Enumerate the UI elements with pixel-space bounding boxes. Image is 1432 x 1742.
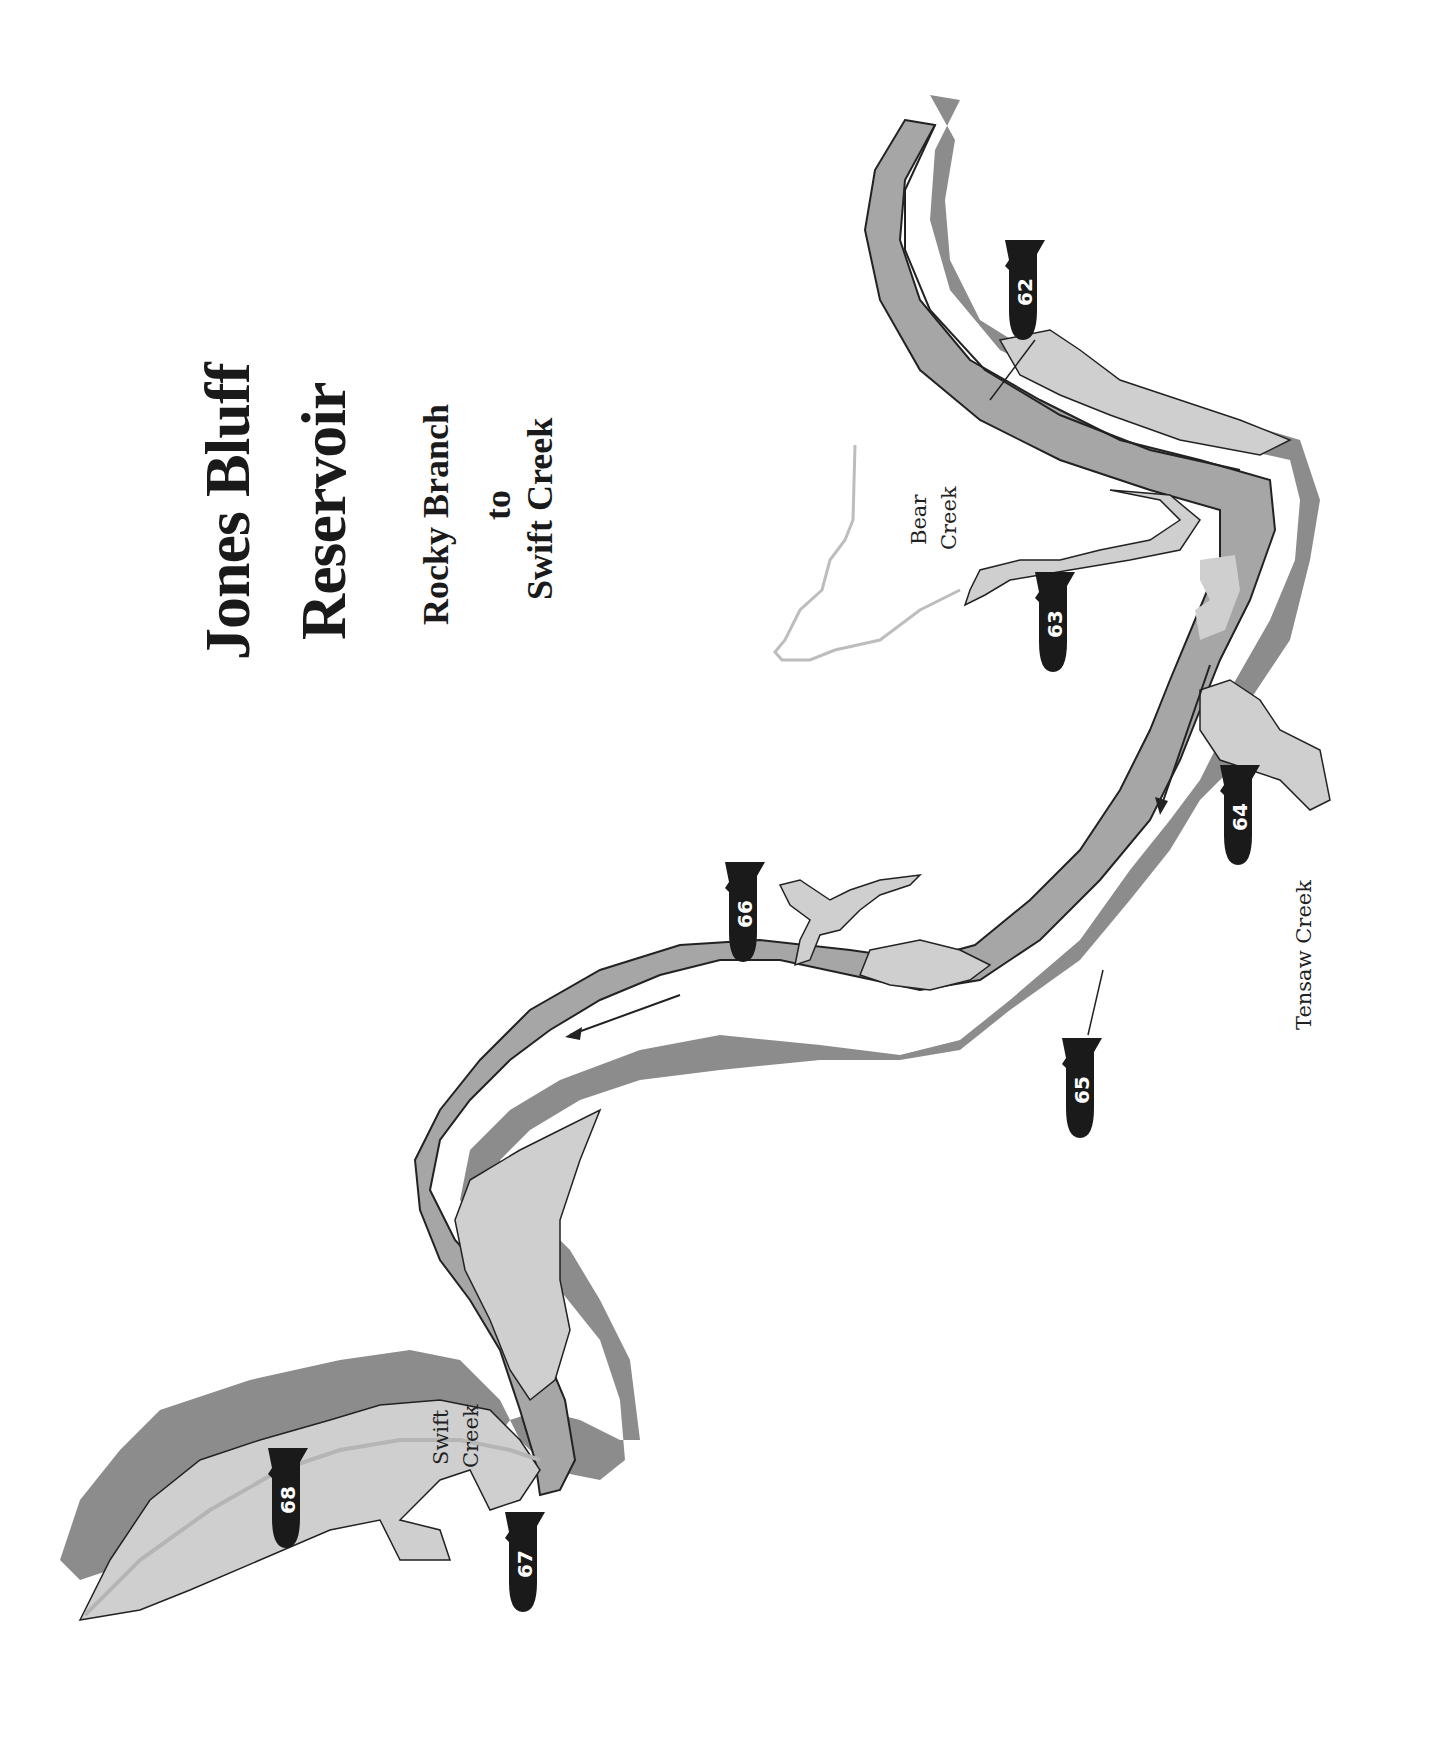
map-subtitle-line2: to [480,490,516,520]
fishing-spot-62[interactable]: 62 [1005,240,1045,340]
fishing-spot-67[interactable]: 67 [505,1512,545,1612]
map-title-line2: Reservoir [292,382,356,640]
fishing-spot-63[interactable]: 63 [1035,572,1075,672]
label-swift-creek-line1: Swift [430,1410,452,1465]
marker-pointer-65 [1088,970,1103,1035]
svg-text:65: 65 [1070,1076,1094,1104]
bear-creek-flats [965,490,1200,605]
label-bear-creek-line2: Creek [938,486,960,550]
svg-text:66: 66 [733,900,757,928]
svg-text:63: 63 [1043,610,1067,638]
map-title-line1: Jones Bluff [196,363,260,660]
label-bear-creek-line1: Bear [908,495,930,545]
bear-creek-line [775,445,960,660]
reservoir-map: 62 63 64 65 66 67 68 [0,0,1432,1742]
tensaw-creek-flats [1200,680,1330,810]
svg-text:64: 64 [1228,803,1252,831]
map-subtitle-line1: Rocky Branch [418,404,454,625]
fishing-spot-64[interactable]: 64 [1220,765,1260,865]
svg-text:68: 68 [276,1486,300,1514]
label-swift-creek-line2: Creek [460,1404,482,1468]
svg-text:67: 67 [513,1550,537,1578]
fishing-spot-65[interactable]: 65 [1062,1038,1102,1138]
label-tensaw-creek: Tensaw Creek [1293,880,1315,1030]
map-subtitle-line3: Swift Creek [522,418,558,600]
svg-text:62: 62 [1013,278,1037,306]
